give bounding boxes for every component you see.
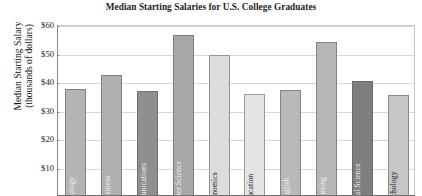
y-axis-tick-labels: $60$50$40$30$20$10 — [28, 18, 54, 188]
bar-biology[interactable]: Biology — [65, 89, 86, 196]
bar-label-economics: Economics — [212, 173, 220, 196]
chart-figure: Median Starting Salaries for U.S. Colleg… — [0, 0, 422, 196]
y-tick-label-60: $60 — [28, 20, 54, 30]
bar-economics[interactable]: Economics — [209, 55, 230, 196]
bar-series: BiologyBusinessCommunicationsComputer Sc… — [58, 26, 414, 196]
bar-label-nursing: Nursing — [319, 177, 327, 196]
bar-communications[interactable]: Communications — [137, 91, 158, 196]
y-tick-label-10: $10 — [28, 163, 54, 173]
bar-business[interactable]: Business — [101, 75, 122, 196]
bar-computer-science[interactable]: Computer Science — [173, 35, 194, 196]
y-tick-label-40: $40 — [28, 77, 54, 87]
bar-education[interactable]: Education — [244, 94, 265, 196]
bar-label-computer-science: Computer Science — [176, 161, 184, 196]
bar-label-business: Business — [104, 176, 112, 196]
x-axis-baseline — [57, 195, 415, 196]
chart-title: Median Starting Salaries for U.S. Colleg… — [0, 2, 422, 12]
bar-label-biology: Biology — [68, 177, 76, 196]
y-tick-label-20: $20 — [28, 134, 54, 144]
plot-area: BiologyBusinessCommunicationsComputer Sc… — [57, 25, 415, 196]
bar-label-english: English — [283, 178, 291, 196]
y-tick-label-50: $50 — [28, 49, 54, 59]
bar-label-education: Education — [247, 174, 255, 196]
y-tick-label-30: $30 — [28, 106, 54, 116]
bar-label-psychology: Psychology — [391, 172, 399, 196]
bar-nursing[interactable]: Nursing — [316, 42, 337, 196]
bar-psychology[interactable]: Psychology — [388, 95, 409, 196]
bar-label-communications: Communications — [140, 163, 148, 196]
bar-english[interactable]: English — [280, 90, 301, 196]
bar-label-political-science: Political Science — [355, 164, 363, 196]
bar-political-science[interactable]: Political Science — [352, 81, 373, 196]
